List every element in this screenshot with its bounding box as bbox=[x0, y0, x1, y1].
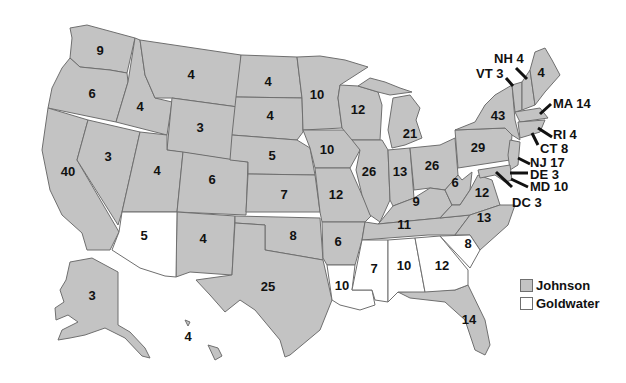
leader-md bbox=[511, 179, 528, 187]
johnson-swatch bbox=[520, 279, 533, 292]
label-ak: 3 bbox=[88, 288, 95, 303]
label-ia: 10 bbox=[320, 142, 334, 157]
leader-ma bbox=[540, 104, 551, 114]
label-ny: 43 bbox=[491, 108, 505, 123]
legend: Johnson Goldwater bbox=[520, 276, 600, 312]
leader-nj bbox=[518, 158, 530, 164]
label-sc: 8 bbox=[464, 236, 471, 251]
label-al: 10 bbox=[397, 258, 411, 273]
label-wa: 9 bbox=[96, 43, 103, 58]
goldwater-swatch bbox=[520, 297, 533, 310]
label-me: 4 bbox=[537, 65, 545, 80]
label-mt: 4 bbox=[187, 67, 195, 82]
legend-item-johnson: Johnson bbox=[520, 276, 600, 294]
legend-label-johnson: Johnson bbox=[536, 278, 590, 293]
label-ne: 5 bbox=[268, 148, 275, 163]
label-hi: 4 bbox=[184, 329, 192, 344]
label-in: 13 bbox=[393, 164, 407, 179]
callout-ri: RI 4 bbox=[553, 127, 578, 142]
leader-ct bbox=[532, 133, 538, 145]
leader-vt bbox=[506, 78, 513, 86]
label-tx: 25 bbox=[261, 279, 275, 294]
label-mi: 21 bbox=[403, 126, 417, 141]
label-co: 6 bbox=[208, 172, 215, 187]
label-id: 4 bbox=[136, 99, 144, 114]
callout-vt: VT 3 bbox=[476, 66, 503, 81]
callout-ma: MA 14 bbox=[553, 96, 592, 111]
callout-md: MD 10 bbox=[530, 179, 568, 194]
label-il: 26 bbox=[362, 164, 376, 179]
leader-ri bbox=[538, 128, 552, 137]
state-hi bbox=[208, 345, 222, 360]
callout-nh: NH 4 bbox=[494, 51, 524, 66]
label-ga: 12 bbox=[435, 258, 449, 273]
label-wy: 3 bbox=[196, 120, 203, 135]
label-mn: 10 bbox=[310, 87, 324, 102]
label-ok: 8 bbox=[289, 228, 296, 243]
label-wv: 6 bbox=[451, 175, 458, 190]
label-va: 12 bbox=[475, 185, 489, 200]
state-hi-small bbox=[185, 320, 190, 326]
label-nd: 4 bbox=[264, 74, 272, 89]
label-oh: 26 bbox=[425, 158, 439, 173]
legend-item-goldwater: Goldwater bbox=[520, 294, 600, 312]
leader-nh bbox=[516, 68, 527, 79]
legend-label-goldwater: Goldwater bbox=[536, 296, 600, 311]
label-ut: 4 bbox=[153, 163, 161, 178]
label-pa: 29 bbox=[471, 140, 485, 155]
callout-dc: DC 3 bbox=[512, 195, 542, 210]
label-az: 5 bbox=[140, 228, 147, 243]
callout-ct: CT 8 bbox=[540, 141, 568, 156]
label-la: 10 bbox=[335, 278, 349, 293]
label-mo: 12 bbox=[329, 187, 343, 202]
label-fl: 14 bbox=[462, 312, 477, 327]
label-ks: 7 bbox=[280, 187, 287, 202]
label-nc: 13 bbox=[477, 210, 491, 225]
label-or: 6 bbox=[88, 86, 95, 101]
state-ak bbox=[55, 258, 150, 358]
label-ms: 7 bbox=[370, 261, 377, 276]
label-nv: 3 bbox=[104, 149, 111, 164]
label-wi: 12 bbox=[351, 102, 365, 117]
label-tn: 11 bbox=[397, 217, 411, 232]
label-sd: 4 bbox=[266, 108, 274, 123]
label-ar: 6 bbox=[334, 234, 341, 249]
label-ky: 9 bbox=[412, 194, 419, 209]
label-nm: 4 bbox=[199, 231, 207, 246]
us-electoral-map: 9 6 40 4 3 4 3 4 5 6 4 4 4 5 7 8 25 10 1… bbox=[0, 0, 626, 383]
state-az bbox=[112, 212, 177, 277]
label-ca: 40 bbox=[61, 164, 75, 179]
